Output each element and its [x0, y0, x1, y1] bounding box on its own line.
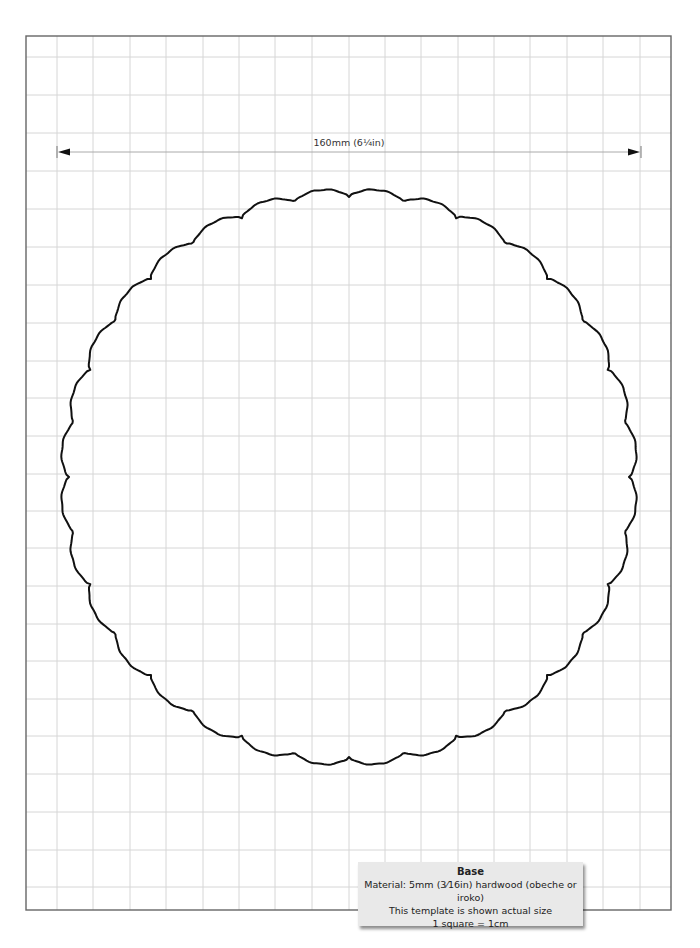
arrow-right-icon [628, 149, 640, 156]
info-title: Base [358, 865, 583, 878]
info-note: This template is shown actual size [358, 904, 583, 917]
info-label-box: Base Material: 5mm (3⁄16in) hardwood (ob… [358, 862, 583, 926]
info-material: Material: 5mm (3⁄16in) hardwood (obeche … [358, 878, 583, 904]
info-scale: 1 square = 1cm [358, 917, 583, 930]
template-sheet: 160mm (6¼in) [0, 0, 700, 948]
dimension-label: 160mm (6¼in) [314, 137, 385, 148]
arrow-left-icon [58, 149, 70, 156]
grid [26, 36, 671, 910]
